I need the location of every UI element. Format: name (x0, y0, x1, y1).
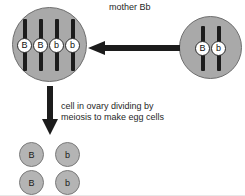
process-description-line-1: cell in ovary dividing by (61, 101, 164, 112)
arrow-left-icon (88, 41, 180, 55)
egg-cell-1: B (19, 142, 44, 167)
allele-badge-4: b (65, 38, 80, 53)
meiosis-diagram: mother Bb B B b b B b cell in ovary divi… (0, 0, 245, 196)
allele-badge-2: B (33, 38, 48, 53)
egg-cell-2: b (55, 142, 80, 167)
mother-cell-label: mother Bb (109, 2, 151, 13)
arrow-down-icon (42, 86, 58, 135)
allele-badge-5: B (195, 41, 210, 56)
source-cell: B b (179, 16, 242, 79)
egg-cell-4: b (55, 170, 80, 195)
allele-badge-6: b (211, 41, 226, 56)
egg-cell-3: B (19, 170, 44, 195)
mother-cell: B B b b (12, 7, 87, 82)
process-description: cell in ovary dividing by meiosis to mak… (61, 101, 164, 123)
allele-badge-3: b (49, 38, 64, 53)
process-description-line-2: meiosis to make egg cells (61, 112, 164, 123)
allele-badge-1: B (17, 38, 32, 53)
